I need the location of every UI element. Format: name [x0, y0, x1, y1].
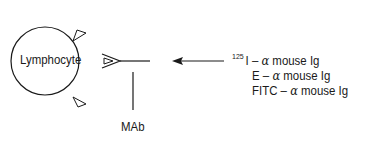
dash: –	[252, 53, 258, 68]
antibody-label: MAb	[121, 119, 145, 134]
bound-receptor-outer	[102, 54, 120, 68]
reagent-line-2: E – α mouse Ig	[252, 68, 330, 83]
reagent-suffix: mouse Ig	[283, 68, 330, 83]
reagent-line-3: FITC – α mouse Ig	[252, 83, 348, 98]
dash: –	[281, 83, 287, 98]
alpha-symbol: α	[290, 83, 298, 98]
reagent-suffix: mouse Ig	[301, 83, 348, 98]
surface-receptor-bottom	[73, 97, 86, 107]
alpha-symbol: α	[261, 53, 269, 68]
reagent-line-1: 125I – α mouse Ig	[232, 53, 319, 68]
reagent-suffix: mouse Ig	[272, 53, 319, 68]
cell-label: Lymphocyte	[20, 52, 81, 67]
diagram-canvas: Lymphocyte MAb 125I – α mouse Ig E – α m…	[0, 0, 369, 141]
bound-receptor-inner	[104, 58, 113, 64]
dash: –	[263, 68, 269, 83]
reagent-prefix: FITC	[252, 83, 277, 98]
reagent-prefix: E	[252, 68, 260, 83]
isotope-superscript: 125	[232, 52, 244, 61]
surface-receptor-top	[73, 30, 86, 41]
alpha-symbol: α	[272, 68, 280, 83]
reagent-prefix: I	[246, 53, 249, 68]
